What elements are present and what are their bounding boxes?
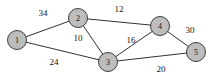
node-label-3: 3 xyxy=(106,58,110,67)
graph-diagram: 12345 34241012162030 xyxy=(0,0,218,78)
node-label-1: 1 xyxy=(15,36,19,45)
graph-node-2: 2 xyxy=(69,9,88,28)
edge-weight-4-5: 30 xyxy=(186,25,196,35)
graph-edge-1-3 xyxy=(26,42,99,60)
graph-node-3: 3 xyxy=(99,53,118,72)
node-label-5: 5 xyxy=(194,48,198,57)
edge-weight-2-4: 12 xyxy=(115,4,124,14)
graph-edge-2-4 xyxy=(87,19,150,25)
graph-node-1: 1 xyxy=(8,31,27,50)
edge-weight-3-4: 16 xyxy=(127,35,137,45)
edge-weight-1-2: 34 xyxy=(39,8,49,18)
node-layer: 12345 xyxy=(8,9,206,72)
edge-weight-1-3: 24 xyxy=(50,57,60,67)
graph-edge-2-3 xyxy=(83,26,102,54)
graph-edge-3-5 xyxy=(117,53,186,61)
node-label-4: 4 xyxy=(158,22,162,31)
node-label-2: 2 xyxy=(76,14,80,23)
graph-node-5: 5 xyxy=(187,43,206,62)
edge-weight-3-5: 20 xyxy=(157,64,167,74)
edge-weight-2-3: 10 xyxy=(74,33,84,43)
graph-node-4: 4 xyxy=(151,17,170,36)
graph-canvas: 12345 34241012162030 xyxy=(0,0,218,78)
graph-edge-1-2 xyxy=(26,21,69,37)
